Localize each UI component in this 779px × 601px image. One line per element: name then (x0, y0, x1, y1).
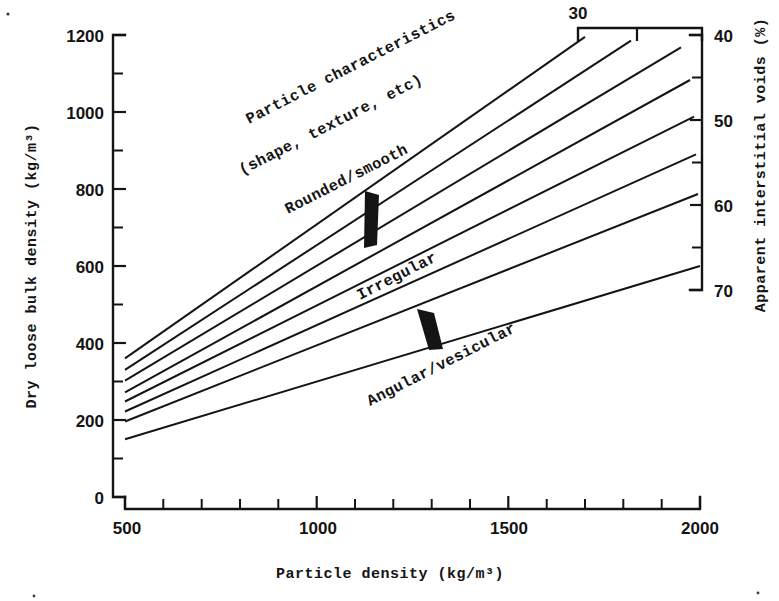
scan-speck (6, 12, 9, 15)
x-axis-bottom: 500 1000 1500 2000 Particle density (kg/… (113, 496, 719, 583)
x-tick-label-1500: 1500 (490, 519, 528, 538)
y-tick-label-200: 200 (76, 412, 104, 431)
y2-tick-label-60: 60 (714, 197, 733, 216)
annotation-angular-vesicular: Angular/vesicular (364, 320, 519, 411)
chart-canvas: 1200 1000 800 600 400 200 0 Dry loose bu… (0, 0, 779, 601)
scan-speck (33, 595, 36, 598)
y-axis-left-title: Dry loose bulk density (kg/m³) (24, 123, 41, 408)
data-line-voids-30 (125, 37, 585, 359)
y-tick-label-1200: 1200 (66, 27, 104, 46)
y-axis-left: 1200 1000 800 600 400 200 0 Dry loose bu… (24, 27, 126, 508)
data-line-voids-70 (125, 266, 700, 439)
y-tick-label-1000: 1000 (66, 104, 104, 123)
data-line-voids-45 (125, 80, 690, 392)
figure-container: 1200 1000 800 600 400 200 0 Dry loose bu… (0, 0, 779, 601)
scan-speck (757, 592, 760, 595)
y2-tick-label-70: 70 (714, 282, 733, 301)
y-tick-label-0: 0 (95, 489, 104, 508)
annotation-irregular: Irregular (354, 249, 440, 305)
x-tick-label-2000: 2000 (681, 519, 719, 538)
top-axis-spine (578, 28, 702, 40)
y-tick-label-600: 600 (76, 258, 104, 277)
y2-tick-label-40: 40 (714, 27, 733, 46)
y-tick-label-400: 400 (76, 335, 104, 354)
top-axis-label-30: 30 (569, 4, 588, 23)
arrow-irregular-to-angular (417, 309, 443, 350)
y2-tick-label-50: 50 (714, 112, 733, 131)
y-tick-label-800: 800 (76, 181, 104, 200)
arrow-rounded-to-irregular (364, 191, 379, 248)
x-tick-label-500: 500 (113, 519, 141, 538)
annotation-rounded-smooth: Rounded/smooth (282, 141, 411, 219)
top-axis-segment: 30 (569, 4, 702, 41)
x-axis-title: Particle density (kg/m³) (276, 566, 504, 583)
y-axis-right-title: Apparent interstitial voids (%) (753, 18, 770, 313)
y-axis-right: 40 50 60 70 Apparent interstitial voids … (690, 18, 770, 313)
x-axis-spine (125, 497, 700, 509)
x-tick-label-1000: 1000 (299, 519, 337, 538)
